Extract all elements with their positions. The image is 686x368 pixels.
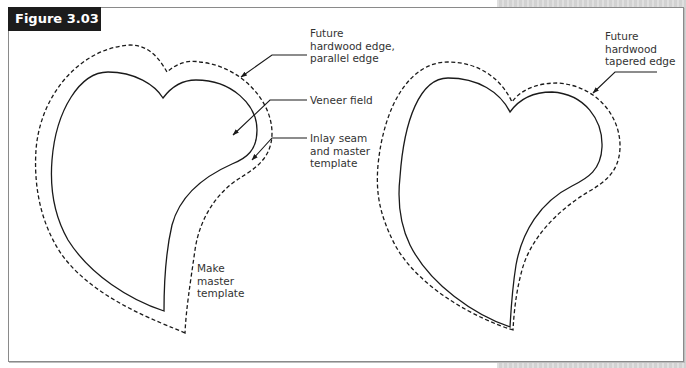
leader-left-seam (252, 138, 307, 160)
callout-left-outer-edge: Future hardwood edge, parallel edge (310, 27, 395, 65)
leader-right-outer (593, 72, 657, 93)
callout-right-tapered-edge: Future hardwood tapered edge (605, 30, 675, 68)
right-inner-seam (399, 78, 602, 327)
right-outer-dashed-edge (377, 62, 620, 330)
leader-left-field (233, 100, 307, 135)
callout-veneer-field: Veneer field (310, 94, 373, 107)
callout-make-master-template: Make master template (197, 262, 244, 300)
callout-inlay-seam: Inlay seam and master template (310, 132, 370, 170)
left-heart-diagram (36, 45, 307, 333)
right-heart-diagram (377, 62, 657, 330)
leader-left-outer (241, 55, 307, 77)
